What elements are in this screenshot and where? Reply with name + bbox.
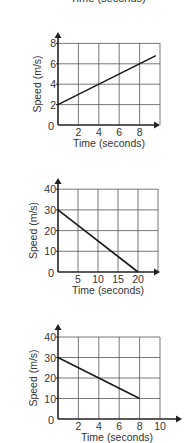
y-tick-label: 2 xyxy=(50,99,56,111)
charts-canvas: Time (seconds) 024682468Time (seconds)Sp… xyxy=(0,0,189,443)
y-axis-label: Speed (m/s) xyxy=(27,202,39,259)
y-tick-label: 10 xyxy=(44,245,56,257)
y-axis-label: Speed (m/s) xyxy=(27,349,39,406)
x-axis-label: Time (seconds) xyxy=(72,284,144,296)
cut-off-xlabel: Time (seconds) xyxy=(70,0,145,4)
y-tick-label: 20 xyxy=(44,372,56,384)
x-axis-label: Time (seconds) xyxy=(81,431,153,443)
x-axis-arrow-icon xyxy=(154,269,160,276)
x-axis-label: Time (seconds) xyxy=(73,137,145,149)
x-tick-label: 10 xyxy=(154,420,166,432)
x-axis-arrow-icon xyxy=(176,416,182,423)
y-tick-label: 10 xyxy=(44,393,56,405)
speed-time-chart-2: 0510152010203040Time (seconds)Speed (m/s… xyxy=(27,178,160,296)
y-tick-label: 8 xyxy=(50,37,56,49)
y-tick-label: 4 xyxy=(50,78,56,90)
y-axis-label: Speed (m/s) xyxy=(31,55,43,112)
y-tick-label: 6 xyxy=(50,58,56,70)
y-tick-label: 20 xyxy=(44,225,56,237)
y-tick-label: 40 xyxy=(44,331,56,343)
speed-time-chart-1: 024682468Time (seconds)Speed (m/s) xyxy=(31,32,160,149)
x-axis-arrow-icon xyxy=(154,122,160,129)
origin-label: 0 xyxy=(48,120,54,132)
y-tick-label: 30 xyxy=(44,204,56,216)
speed-time-chart-3: 024681010203040Time (seconds)Speed (m/s) xyxy=(27,324,182,443)
y-axis-arrow-icon xyxy=(55,324,62,330)
y-tick-label: 30 xyxy=(44,352,56,364)
origin-label: 0 xyxy=(48,267,54,279)
origin-label: 0 xyxy=(48,414,54,426)
y-tick-label: 40 xyxy=(44,183,56,195)
speed-line xyxy=(58,56,156,105)
